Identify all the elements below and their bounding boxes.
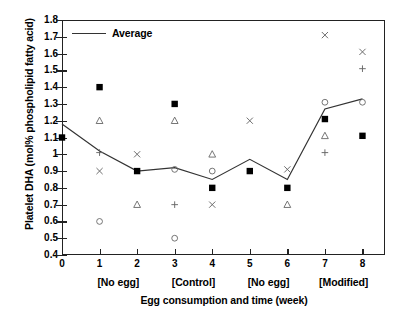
marker-open-triangle	[284, 201, 291, 207]
marker-plus	[322, 149, 329, 156]
marker-filled-square	[96, 84, 102, 90]
marker-filled-square	[359, 133, 365, 139]
marker-filled-square	[322, 116, 328, 122]
marker-filled-square	[59, 134, 65, 140]
marker-open-triangle	[322, 132, 329, 138]
marker-cross	[209, 202, 215, 208]
marker-open-circle	[209, 168, 215, 174]
marker-plus	[171, 201, 178, 208]
x-axis-title: Egg consumption and time (week)	[62, 294, 386, 306]
marker-cross	[359, 49, 365, 55]
marker-open-triangle	[209, 151, 216, 157]
marker-plus	[359, 65, 366, 72]
marker-plus	[96, 149, 103, 156]
marker-filled-square	[247, 168, 253, 174]
chart-container: Platelet DHA (mol% phospholipid fatty ac…	[0, 0, 401, 316]
marker-cross	[134, 151, 140, 157]
marker-cross	[96, 168, 102, 174]
average-line	[62, 99, 362, 180]
marker-cross	[322, 32, 328, 38]
marker-cross	[247, 118, 253, 124]
marker-open-triangle	[96, 117, 103, 123]
marker-filled-square	[171, 101, 177, 107]
marker-filled-square	[284, 185, 290, 191]
marker-open-circle	[322, 99, 328, 105]
marker-open-circle	[360, 99, 366, 105]
marker-open-circle	[97, 219, 103, 225]
data-series-layer	[0, 0, 401, 316]
marker-open-triangle	[171, 117, 178, 123]
marker-open-triangle	[134, 201, 141, 207]
marker-cross	[284, 166, 290, 172]
marker-open-circle	[172, 235, 178, 241]
marker-filled-square	[134, 168, 140, 174]
marker-filled-square	[209, 185, 215, 191]
